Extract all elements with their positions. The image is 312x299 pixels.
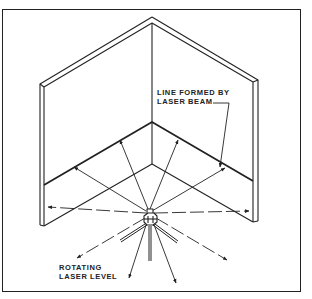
laser-level-diagram xyxy=(0,0,312,299)
right-wall xyxy=(152,17,258,222)
beam-label-line2: LASER BEAM xyxy=(157,98,230,107)
level-label-line2: LASER LEVEL xyxy=(59,273,117,282)
laser-level-label: ROTATING LASER LEVEL xyxy=(59,264,117,281)
tripod-legs xyxy=(120,224,178,261)
beam-label-leader xyxy=(213,103,229,167)
beam-line-label: LINE FORMED BY LASER BEAM xyxy=(157,89,230,106)
left-wall xyxy=(40,17,152,226)
laser-level-device-icon xyxy=(144,209,157,225)
